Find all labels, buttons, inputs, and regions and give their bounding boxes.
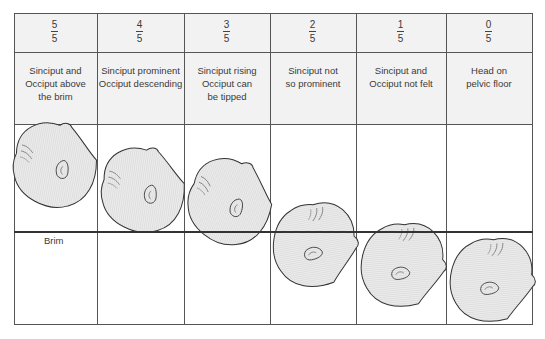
- head-5-5: [7, 115, 103, 213]
- brim-line: [14, 231, 533, 233]
- head-4-5: [96, 142, 190, 238]
- head-1-5: [358, 220, 450, 310]
- head-0-5: [447, 235, 539, 325]
- head-3-5: [177, 147, 284, 255]
- fetal-heads-illustration: [0, 0, 545, 339]
- head-2-5: [267, 197, 365, 293]
